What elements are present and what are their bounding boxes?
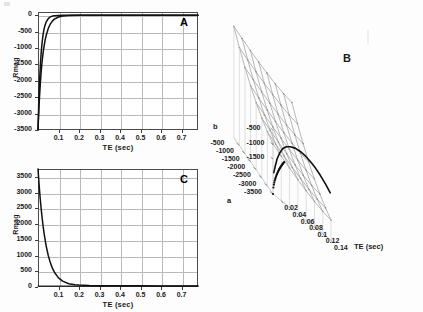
- panel-c-xaxis-title: TE (sec): [68, 300, 168, 309]
- x-axis-tick: [100, 287, 101, 290]
- trajectory-marker: [283, 161, 285, 163]
- mesh-line-te: [234, 26, 292, 102]
- x-axis-tick: [79, 130, 80, 133]
- mesh-vertex: [280, 104, 282, 106]
- mesh-vertex: [311, 185, 313, 187]
- mesh-vertex: [258, 97, 260, 99]
- panel-a: A TE (sec) Rmag 0.10.20.30.40.50.60.70-5…: [0, 0, 210, 155]
- y-axis-tick: [35, 287, 38, 288]
- y-axis-tick-label: 0: [0, 282, 32, 289]
- x-axis-tick-label: 0.14: [334, 244, 348, 251]
- x-axis-tick-label: 0.7: [167, 134, 197, 141]
- y-axis-tick: [35, 130, 38, 131]
- panel-b-baxis-title: b: [213, 122, 218, 131]
- mesh-line-te: [262, 118, 320, 194]
- a-axis-tick-label: -3500: [244, 188, 262, 195]
- a-axis-tick-label: -500: [211, 139, 225, 146]
- y-axis-tick: [35, 193, 38, 194]
- mesh-vertex: [280, 138, 282, 140]
- y-axis-tick: [35, 256, 38, 257]
- mesh-vertex: [272, 94, 274, 96]
- mesh-vertex: [275, 121, 277, 123]
- a-axis-tick-label: -1500: [222, 155, 240, 162]
- mesh-vertex: [297, 159, 299, 161]
- mesh-vertex: [308, 161, 310, 163]
- x-axis-tick: [120, 287, 121, 290]
- y-axis-tick-label: -1000: [0, 43, 32, 50]
- mesh-vertex: [289, 149, 291, 151]
- mesh-vertex: [286, 124, 288, 126]
- x-axis-tick: [141, 130, 142, 133]
- mesh-vertex: [286, 153, 288, 155]
- b-axis-tick: [271, 157, 273, 159]
- y-axis-tick: [35, 81, 38, 82]
- y-axis-tick: [35, 48, 38, 49]
- mesh-vertex: [253, 79, 255, 81]
- mesh-vertex: [275, 143, 277, 145]
- a-axis-tick-label: -2500: [233, 171, 251, 178]
- mesh-vertex: [258, 61, 260, 63]
- y-axis-tick-label: 3500: [0, 172, 32, 179]
- mesh-vertex: [278, 141, 280, 143]
- panel-a-letter: A: [180, 16, 188, 28]
- x-axis-tick: [59, 130, 60, 133]
- mesh-vertex: [288, 114, 290, 116]
- x-axis-tick: [59, 287, 60, 290]
- mesh-vertex: [264, 114, 266, 116]
- mesh-vertex: [283, 155, 285, 157]
- mesh-vertex: [261, 91, 263, 93]
- y-axis-tick: [35, 271, 38, 272]
- mesh-vertex: [266, 109, 268, 111]
- x-axis-tick-label: 0.7: [167, 291, 197, 298]
- y-axis-tick-label: 2500: [0, 203, 32, 210]
- panel-b-aaxis-title: a: [227, 196, 231, 205]
- trajectory-marker: [273, 184, 275, 186]
- panel-c-letter: C: [180, 173, 188, 185]
- mesh-vertex: [264, 83, 266, 85]
- mesh-vertex: [325, 207, 327, 209]
- data-curve: [38, 15, 198, 130]
- y-axis-tick-label: -3500: [0, 125, 32, 132]
- mesh-vertex: [292, 167, 294, 169]
- mesh-vertex: [277, 114, 279, 116]
- b-axis-tick-label: -1500: [247, 153, 265, 160]
- y-axis-tick-label: 1000: [0, 251, 32, 258]
- y-axis-tick-label: 1500: [0, 235, 32, 242]
- y-axis-tick-label: -3000: [0, 109, 32, 116]
- mesh-vertex: [302, 143, 304, 145]
- panel-b-xaxis-title: TE (sec): [354, 242, 383, 251]
- mesh-vertex: [305, 169, 307, 171]
- b-axis-tick-label: -500: [247, 124, 261, 131]
- y-axis-tick: [35, 64, 38, 65]
- mesh-vertex: [266, 72, 268, 74]
- mesh-line-a: [259, 62, 298, 180]
- data-curve: [38, 15, 198, 130]
- mesh-vertex: [291, 142, 293, 144]
- mesh-vertex: [314, 178, 316, 180]
- mesh-vertex: [283, 93, 285, 95]
- y-axis-tick-label: 3000: [0, 188, 32, 195]
- a-axis-tick-label: -1000: [216, 147, 234, 154]
- mesh-line-te: [256, 103, 314, 179]
- y-axis-tick: [35, 15, 38, 16]
- x-axis-tick: [161, 287, 162, 290]
- b-axis-tick: [271, 128, 273, 130]
- mesh-vertex: [297, 123, 299, 125]
- mesh-vertex: [294, 134, 296, 136]
- x-axis-tick: [79, 287, 80, 290]
- mesh-vertex: [294, 164, 296, 166]
- figure-canvas: A TE (sec) Rmag 0.10.20.30.40.50.60.70-5…: [0, 0, 423, 312]
- mesh-vertex: [255, 71, 257, 73]
- panel-b-letter: B: [343, 52, 351, 64]
- panel-c: C TE (sec) Rmag 0.10.20.30.40.50.60.7350…: [0, 157, 210, 312]
- y-axis-tick: [35, 32, 38, 33]
- mesh-vertex: [247, 59, 249, 61]
- panel-a-xaxis-title: TE (sec): [68, 143, 168, 152]
- y-axis-tick-label: 0: [0, 10, 32, 17]
- panel-b: B b a TE (sec) 0.020.040.060.080.10.120.…: [213, 18, 423, 268]
- y-axis-tick: [35, 240, 38, 241]
- x-axis-tick: [182, 287, 183, 290]
- mesh-vertex: [241, 38, 243, 40]
- mesh-vertex: [272, 126, 274, 128]
- mesh-vertex: [303, 175, 305, 177]
